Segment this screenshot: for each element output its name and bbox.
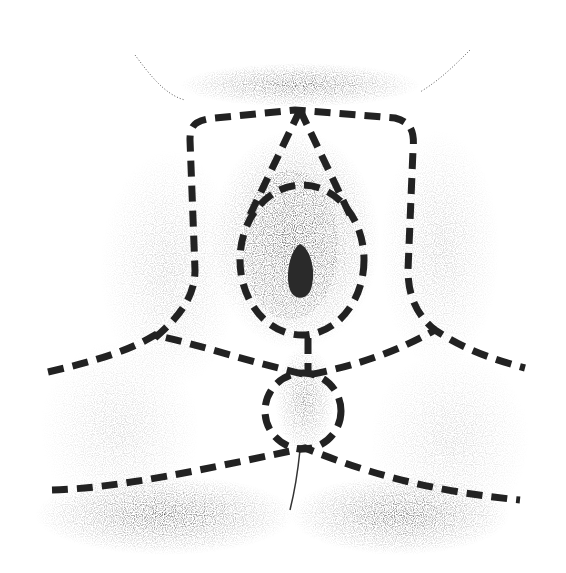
outline-right-top	[420, 50, 470, 92]
anatomical-diagram	[0, 0, 566, 573]
stipple-shading	[35, 63, 530, 555]
outline-left-top	[135, 55, 185, 100]
